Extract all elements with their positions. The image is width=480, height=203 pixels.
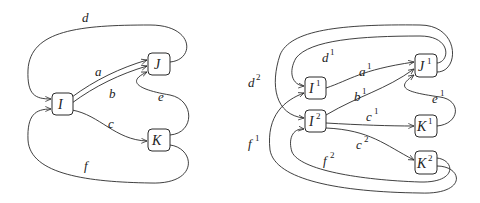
edge-label-b1: b 1 (354, 86, 367, 104)
node-K1: K 1 (415, 115, 437, 137)
edge-label-b: b (109, 86, 116, 101)
svg-text:1: 1 (316, 78, 321, 88)
svg-text:2: 2 (316, 111, 321, 121)
svg-text:f: f (323, 153, 329, 168)
edge-label-d2: d 2 (248, 72, 261, 90)
svg-text:K: K (416, 119, 427, 134)
edge-label-e: e (158, 89, 164, 104)
svg-text:2: 2 (428, 153, 433, 163)
svg-text:c: c (356, 137, 362, 152)
svg-text:2: 2 (256, 72, 261, 82)
edge-label-a: a (95, 64, 102, 79)
svg-text:1: 1 (367, 61, 372, 71)
svg-text:1: 1 (330, 47, 335, 57)
svg-text:K: K (151, 133, 162, 148)
edge-label-c2: c 2 (356, 134, 369, 152)
svg-text:d: d (322, 50, 329, 65)
node-J1: J 1 (415, 54, 437, 77)
edge-label-d: d (82, 10, 89, 25)
edge-label-c1: c 1 (366, 106, 379, 124)
graph-figure: d a b c e f I J K (0, 0, 480, 203)
svg-text:a: a (359, 64, 366, 79)
edge-label-f1: f 1 (248, 133, 260, 151)
svg-text:2: 2 (364, 134, 369, 144)
svg-text:J: J (418, 59, 425, 74)
svg-text:1: 1 (374, 106, 379, 116)
svg-text:1: 1 (440, 88, 445, 98)
svg-text:f: f (248, 136, 254, 151)
cover-graph: d 1 d 2 a 1 b 1 c 1 c 2 e 1 f 1 (248, 25, 456, 193)
svg-text:1: 1 (255, 133, 260, 143)
edge-label-d1: d 1 (322, 47, 335, 65)
node-I2: I 2 (305, 110, 326, 132)
node-J: J (148, 53, 170, 75)
edge-f1 (269, 93, 456, 193)
base-graph: d a b c e f I J K (28, 10, 189, 183)
edge-label-a1: a 1 (359, 61, 372, 79)
svg-text:d: d (248, 75, 255, 90)
node-I1: I 1 (305, 77, 326, 99)
edge-label-f: f (84, 158, 90, 173)
svg-text:K: K (416, 156, 427, 171)
edge-label-f2: f 2 (323, 150, 335, 168)
svg-text:1: 1 (427, 56, 432, 66)
node-K2: K 2 (415, 151, 437, 174)
svg-text:2: 2 (330, 150, 335, 160)
svg-text:b: b (354, 89, 361, 104)
edge-label-c: c (108, 116, 114, 131)
svg-text:e: e (432, 91, 438, 106)
svg-text:J: J (154, 57, 161, 72)
svg-text:1: 1 (428, 116, 433, 126)
edge-c2 (326, 128, 414, 160)
node-I: I (52, 93, 73, 115)
node-K: K (148, 129, 170, 151)
svg-text:c: c (366, 109, 372, 124)
svg-text:1: 1 (362, 86, 367, 96)
